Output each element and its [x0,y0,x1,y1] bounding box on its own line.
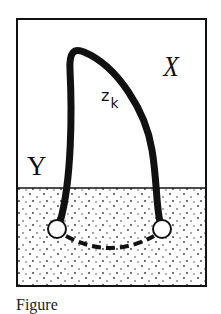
label-z: z [101,86,109,105]
label-curve-zk: zk [101,88,118,104]
label-region-y: Y [27,153,47,180]
label-region-x: X [163,51,179,81]
figure-caption: Figure [16,296,58,314]
endpoint-right [153,220,171,238]
region-y-stipple [17,188,206,286]
endpoint-left [48,220,66,238]
label-subscript-k: k [110,95,118,111]
